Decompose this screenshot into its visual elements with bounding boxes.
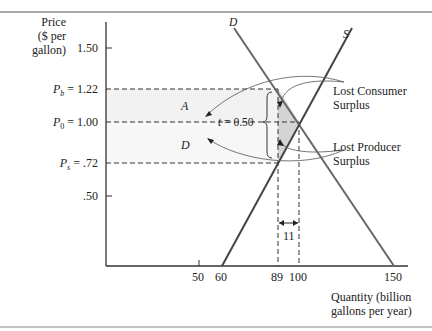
p0-value: = 1.00: [67, 115, 98, 129]
x-tick-50: 50: [192, 270, 204, 285]
pb-value: = 1.22: [67, 82, 98, 96]
lost-producer-surplus-label: Lost Producer Surplus: [333, 140, 423, 168]
y-tick-ps: Ps = .72: [60, 156, 98, 172]
y-tick-p0: P0 = 1.00: [53, 115, 98, 131]
x-title-line-1: Quantity (billion: [331, 290, 412, 304]
region-a-label: A: [181, 99, 188, 114]
y-axis-title: Price ($ per gallon): [32, 15, 66, 57]
y-title-line-1: Price: [32, 15, 66, 29]
pb-sub: b: [60, 89, 64, 98]
ps-sub: s: [67, 163, 70, 172]
x-tick-100: 100: [289, 270, 307, 285]
x-tick-150: 150: [384, 270, 402, 285]
x-tick-60: 60: [215, 270, 227, 285]
lost-consumer-surplus-label: Lost Consumer Surplus: [333, 84, 428, 112]
ps-value: = .72: [73, 156, 98, 170]
y-tick-050: .50: [83, 189, 98, 204]
y-title-line-3: gallon): [32, 43, 66, 57]
y-tick-150: 1.50: [77, 41, 98, 56]
p0-sub: 0: [60, 122, 64, 131]
x-tick-89: 89: [271, 270, 283, 285]
ps-symbol: P: [60, 156, 67, 170]
y-title-line-2: ($ per: [32, 29, 66, 43]
x-axis-title: Quantity (billion gallons per year): [331, 290, 412, 318]
quantity-gap-label: 11: [283, 229, 295, 244]
x-title-line-2: gallons per year): [331, 304, 412, 318]
region-d-label: D: [181, 138, 190, 153]
y-tick-pb: Pb = 1.22: [53, 82, 98, 98]
